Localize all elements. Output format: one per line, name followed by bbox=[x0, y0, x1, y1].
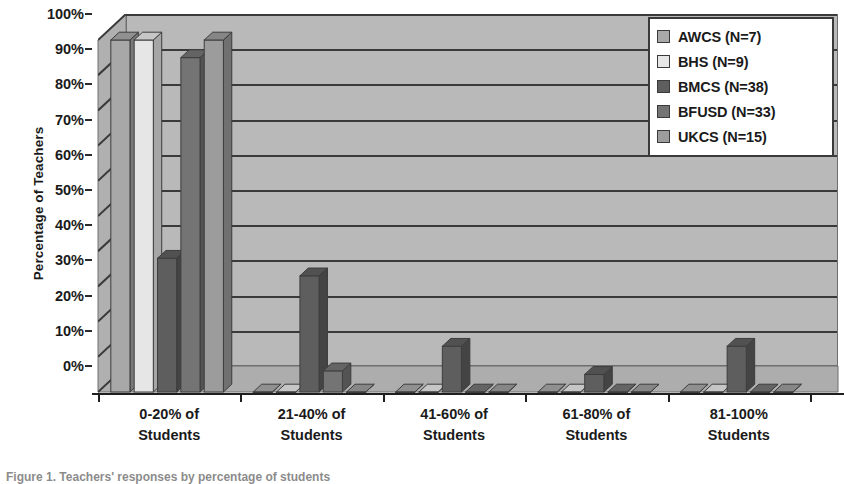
x-tick-mark bbox=[668, 393, 670, 402]
y-axis-tick-labels: 100%90%80%70%60%50%40%30%20%10%0% bbox=[30, 0, 92, 420]
x-tick-label-line: Students bbox=[526, 425, 666, 446]
x-tick-label-line: Students bbox=[384, 425, 524, 446]
legend-swatch-icon bbox=[657, 30, 670, 43]
y-tick-mark bbox=[85, 13, 92, 15]
x-tick-label: 0-20% ofStudents bbox=[99, 404, 239, 445]
x-tick-label: 21-40% ofStudents bbox=[242, 404, 382, 445]
y-tick-label: 70% bbox=[55, 112, 84, 128]
x-tick-mark bbox=[525, 393, 527, 402]
y-tick-label: 0% bbox=[63, 358, 84, 374]
x-tick-label-line: Students bbox=[99, 425, 239, 446]
y-tick-label: 100% bbox=[47, 6, 84, 22]
chart-figure: Percentage of Teachers 100%90%80%70%60%5… bbox=[0, 0, 844, 484]
y-tick-mark bbox=[85, 48, 92, 50]
x-axis-line bbox=[92, 393, 844, 395]
legend-swatch-icon bbox=[657, 105, 670, 118]
legend-swatch-icon bbox=[657, 80, 670, 93]
x-tick-label: 41-60% ofStudents bbox=[384, 404, 524, 445]
legend-item[interactable]: UKCS (N=15) bbox=[657, 124, 825, 149]
legend-swatch-icon bbox=[657, 130, 670, 143]
y-tick-label: 20% bbox=[55, 288, 84, 304]
bar-top-face bbox=[774, 384, 802, 392]
legend-item-label: BMCS (N=38) bbox=[678, 79, 768, 95]
y-tick-label: 40% bbox=[55, 217, 84, 233]
x-tick-mark bbox=[383, 393, 385, 402]
legend-item-label: AWCS (N=7) bbox=[678, 29, 761, 45]
y-tick-label: 60% bbox=[55, 147, 84, 163]
x-tick-mark bbox=[98, 393, 100, 402]
x-tick-label-line: 0-20% of bbox=[99, 404, 239, 425]
x-tick-label-line: 21-40% of bbox=[242, 404, 382, 425]
y-tick-label: 80% bbox=[55, 76, 84, 92]
x-tick-mark bbox=[240, 393, 242, 402]
x-axis-tick-labels: 0-20% ofStudents21-40% ofStudents41-60% … bbox=[98, 404, 838, 464]
x-tick-label-line: Students bbox=[242, 425, 382, 446]
chart-legend: AWCS (N=7)BHS (N=9)BMCS (N=38)BFUSD (N=3… bbox=[648, 17, 834, 157]
x-tick-label-line: 81-100% bbox=[669, 404, 809, 425]
x-tick-label-line: 41-60% of bbox=[384, 404, 524, 425]
legend-swatch-icon bbox=[657, 55, 670, 68]
y-tick-label: 10% bbox=[55, 323, 84, 339]
x-tick-label-line: Students bbox=[669, 425, 809, 446]
y-tick-mark bbox=[85, 119, 92, 121]
y-tick-label: 30% bbox=[55, 252, 84, 268]
legend-item[interactable]: BFUSD (N=33) bbox=[657, 99, 825, 124]
legend-item-label: UKCS (N=15) bbox=[678, 129, 767, 145]
y-tick-label: 90% bbox=[55, 41, 84, 57]
figure-caption: Figure 1. Teachers' responses by percent… bbox=[6, 470, 330, 484]
legend-item[interactable]: BHS (N=9) bbox=[657, 49, 825, 74]
x-tick-label: 81-100%Students bbox=[669, 404, 809, 445]
legend-item-label: BFUSD (N=33) bbox=[678, 104, 776, 120]
y-tick-mark bbox=[85, 224, 92, 226]
x-tick-label: 61-80% ofStudents bbox=[526, 404, 666, 445]
y-tick-mark bbox=[85, 259, 92, 261]
y-tick-mark bbox=[85, 295, 92, 297]
y-tick-mark bbox=[85, 365, 92, 367]
legend-item-label: BHS (N=9) bbox=[678, 54, 748, 70]
legend-item[interactable]: AWCS (N=7) bbox=[657, 24, 825, 49]
y-tick-label: 50% bbox=[55, 182, 84, 198]
y-tick-mark bbox=[85, 83, 92, 85]
x-tick-mark bbox=[810, 393, 812, 402]
y-tick-mark bbox=[85, 154, 92, 156]
x-tick-label-line: 61-80% of bbox=[526, 404, 666, 425]
y-tick-mark bbox=[85, 330, 92, 332]
legend-item[interactable]: BMCS (N=38) bbox=[657, 74, 825, 99]
y-tick-mark bbox=[85, 189, 92, 191]
